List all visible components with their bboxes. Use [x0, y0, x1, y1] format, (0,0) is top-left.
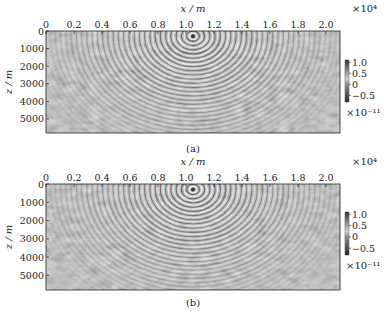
- y-tick-label: 5000: [20, 270, 44, 281]
- y-tick-label: 0: [38, 26, 44, 37]
- colorbar-tick-label: 0: [352, 79, 358, 90]
- y-tick-label: 3000: [20, 233, 44, 244]
- figure: 00.20.40.60.81.01.21.41.61.82.0 01000200…: [0, 0, 384, 316]
- x-tick-label: 1.6: [262, 19, 277, 30]
- x-tick-label: 0.4: [94, 172, 109, 183]
- y-ticks-a: 010002000300040005000: [20, 26, 49, 125]
- colorbar-b-multiplier: ×10⁻¹¹: [346, 260, 380, 271]
- y-axis-label-b: z / m: [3, 225, 14, 250]
- caption-a: (a): [186, 143, 200, 154]
- y-tick-label: 1000: [20, 197, 44, 208]
- source-point: [191, 34, 195, 38]
- x-tick-label: 1.8: [290, 172, 305, 183]
- x-tick-label: 0.6: [122, 172, 137, 183]
- y-axis-label-a: z / m: [3, 70, 14, 95]
- panel-a: 00.20.40.60.81.01.21.41.61.82.0 01000200…: [3, 0, 380, 163]
- x-axis-label-a: x / m: [181, 3, 206, 14]
- colorbar-tick-label: −0.5: [352, 90, 375, 101]
- colorbar-a: 1.00.50−0.5 ×10⁻¹¹: [345, 57, 380, 118]
- x-multiplier-a: ×10⁴: [352, 3, 377, 14]
- x-tick-label: 0.8: [150, 172, 165, 183]
- colorbar-b-gradient: [345, 212, 349, 255]
- y-tick-label: 5000: [20, 113, 44, 124]
- x-tick-label: 1.6: [262, 172, 277, 183]
- colorbar-tick-label: 1.0: [352, 209, 367, 220]
- x-axis-label-b: x / m: [181, 156, 206, 167]
- x-tick-label: 1.4: [234, 172, 249, 183]
- x-tick-label: 0.4: [94, 19, 109, 30]
- y-tick-label: 3000: [20, 78, 44, 89]
- x-tick-label: 0.6: [122, 19, 137, 30]
- y-tick-label: 4000: [20, 252, 44, 263]
- caption-b: (b): [186, 297, 200, 308]
- x-tick-label: 2.0: [318, 172, 333, 183]
- y-tick-label: 1000: [20, 43, 44, 54]
- colorbar-tick-label: −0.5: [352, 243, 375, 254]
- x-tick-label: 1.2: [206, 19, 221, 30]
- x-tick-label: 1.4: [234, 19, 249, 30]
- colorbar-tick-label: 0: [352, 231, 358, 242]
- x-tick-label: 1.2: [206, 172, 221, 183]
- x-tick-label: 0.2: [66, 172, 81, 183]
- x-multiplier-b: ×10⁴: [352, 156, 377, 167]
- y-tick-label: 2000: [20, 61, 44, 72]
- colorbar-tick-label: 1.0: [352, 57, 367, 68]
- source-point: [191, 187, 195, 191]
- y-tick-label: 0: [38, 179, 44, 190]
- y-tick-label: 4000: [20, 96, 44, 107]
- x-tick-label: 1.0: [178, 19, 193, 30]
- x-tick-label: 1.0: [178, 172, 193, 183]
- colorbar-a-gradient: [345, 60, 349, 102]
- colorbar-a-multiplier: ×10⁻¹¹: [346, 107, 380, 118]
- colorbar-b: 1.00.50−0.5 ×10⁻¹¹: [345, 209, 380, 271]
- y-ticks-b: 010002000300040005000: [20, 179, 49, 281]
- x-tick-label: 1.8: [290, 19, 305, 30]
- x-tick-label: 0.2: [66, 19, 81, 30]
- x-tick-label: 0.8: [150, 19, 165, 30]
- colorbar-tick-label: 0.5: [352, 220, 367, 231]
- y-tick-label: 2000: [20, 215, 44, 226]
- colorbar-tick-label: 0.5: [352, 68, 367, 79]
- x-tick-label: 2.0: [318, 19, 333, 30]
